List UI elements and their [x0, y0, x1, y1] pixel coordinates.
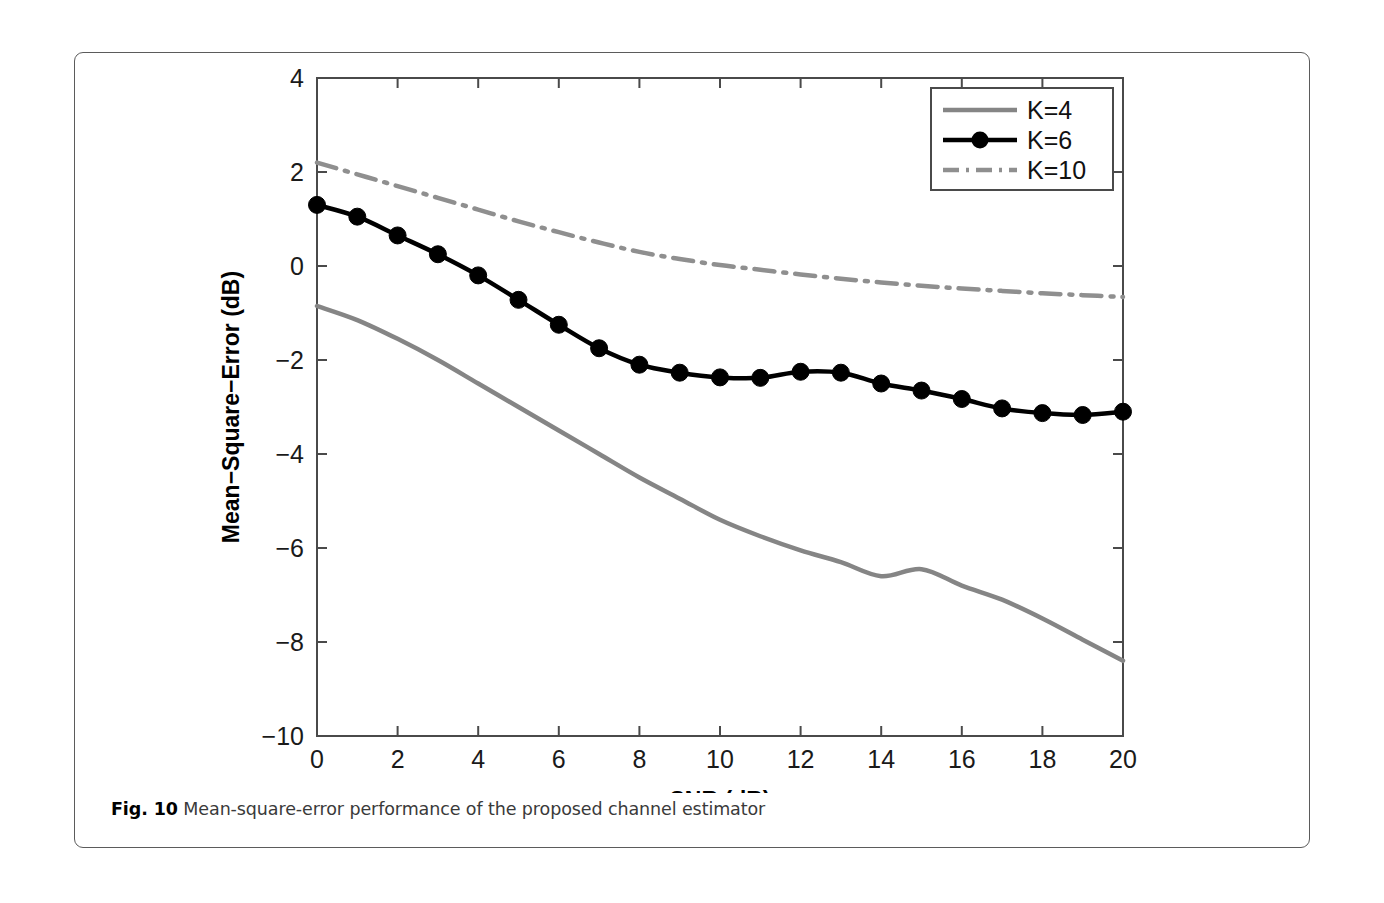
data-point-marker [631, 356, 648, 373]
y-tick-label: 2 [290, 158, 304, 186]
x-tick-label: 10 [706, 745, 734, 773]
x-tick-label: 18 [1028, 745, 1056, 773]
y-tick-label: 4 [290, 64, 304, 92]
x-tick-label: 12 [787, 745, 815, 773]
x-axis-title: SNR (dB) [670, 787, 771, 793]
data-point-marker [913, 382, 930, 399]
data-point-marker [953, 391, 970, 408]
y-tick-label: −6 [275, 534, 304, 562]
y-axis-title: Mean−Square−Error (dB) [218, 271, 244, 543]
caption-body: Mean-square-error performance of the pro… [183, 799, 765, 819]
data-point-marker [752, 369, 769, 386]
mse-line-chart: 02468101214161820420−2−4−6−8−10SNR (dB)M… [75, 53, 1311, 793]
y-tick-label: 0 [290, 252, 304, 280]
data-point-marker [1074, 406, 1091, 423]
data-point-marker [591, 340, 608, 357]
legend-label: K=10 [1027, 156, 1086, 184]
chart-plot-area: 02468101214161820420−2−4−6−8−10SNR (dB)M… [75, 53, 1311, 793]
chart-legend: K=4K=6K=10 [931, 88, 1113, 190]
legend-marker [972, 132, 989, 149]
x-tick-label: 8 [632, 745, 646, 773]
x-tick-label: 4 [471, 745, 485, 773]
data-point-marker [1034, 405, 1051, 422]
figure-page: 02468101214161820420−2−4−6−8−10SNR (dB)M… [0, 0, 1384, 903]
y-tick-label: −8 [275, 628, 304, 656]
series-line-k-4 [317, 306, 1123, 661]
x-tick-label: 6 [552, 745, 566, 773]
data-point-marker [349, 208, 366, 225]
data-point-marker [470, 267, 487, 284]
figure-card: 02468101214161820420−2−4−6−8−10SNR (dB)M… [74, 52, 1310, 848]
data-point-marker [1115, 403, 1132, 420]
x-tick-label: 20 [1109, 745, 1137, 773]
caption-label: Fig. 10 [111, 799, 178, 819]
figure-caption: Fig. 10 Mean-square-error performance of… [111, 799, 1279, 821]
legend-label: K=6 [1027, 126, 1072, 154]
x-tick-label: 2 [391, 745, 405, 773]
data-point-marker [832, 364, 849, 381]
data-point-marker [389, 227, 406, 244]
x-tick-label: 0 [310, 745, 324, 773]
data-point-marker [550, 316, 567, 333]
data-point-marker [792, 363, 809, 380]
y-tick-label: −4 [275, 440, 304, 468]
legend-label: K=4 [1027, 96, 1072, 124]
x-tick-label: 16 [948, 745, 976, 773]
data-point-marker [429, 246, 446, 263]
y-tick-label: −10 [262, 722, 304, 750]
data-point-marker [510, 291, 527, 308]
data-point-marker [994, 400, 1011, 417]
x-tick-label: 14 [867, 745, 895, 773]
data-point-marker [873, 375, 890, 392]
data-point-marker [671, 364, 688, 381]
data-point-marker [309, 196, 326, 213]
data-point-marker [712, 369, 729, 386]
y-tick-label: −2 [275, 346, 304, 374]
